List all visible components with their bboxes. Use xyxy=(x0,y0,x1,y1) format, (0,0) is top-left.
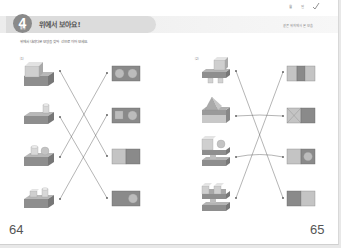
object-cylinder-sphere-on-slab xyxy=(24,146,54,166)
answer-lines-1 xyxy=(60,71,107,199)
top-view-dark-light[interactable] xyxy=(287,191,315,206)
object-castle-stack xyxy=(202,183,230,211)
object-cube-cylinder-on-slab xyxy=(24,188,54,208)
object-cube-sphere-stack xyxy=(202,136,230,166)
endpoint-dots xyxy=(59,70,284,200)
page-number-right: 65 xyxy=(310,222,324,237)
object-cube-on-slab xyxy=(24,62,54,86)
top-view-dark-circle[interactable] xyxy=(112,191,140,206)
object-cube-on-legs xyxy=(202,57,230,83)
top-view-light-dark[interactable] xyxy=(112,149,140,164)
top-view-square-circle[interactable] xyxy=(112,108,140,123)
answer-lines-2 xyxy=(236,71,283,198)
top-view-three-stripes[interactable] xyxy=(287,66,315,81)
object-cylinder-on-slab xyxy=(24,104,54,124)
object-pyramid-on-block xyxy=(202,97,230,123)
workbook-spread: 4 활동 위에서 보아요! 같은 위치에서 본 모습 월 일 위에서 내려다본 … xyxy=(0,0,339,245)
exercise-drawing xyxy=(0,0,341,248)
top-view-x-dark[interactable] xyxy=(287,108,315,123)
top-view-light-circle[interactable] xyxy=(287,149,315,164)
top-view-two-circles[interactable] xyxy=(112,66,140,81)
page-number-left: 64 xyxy=(9,222,23,237)
